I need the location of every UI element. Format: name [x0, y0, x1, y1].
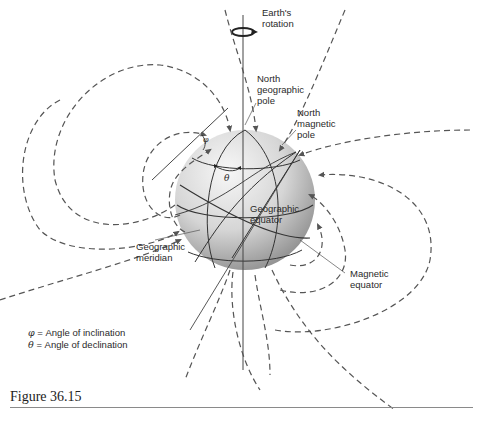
label-magnetic-equator: Magnetic equator	[350, 268, 389, 290]
phi-symbol: φ	[203, 134, 209, 145]
earth-sphere	[175, 130, 315, 270]
legend: φ = Angle of inclination θ = Angle of de…	[28, 327, 127, 351]
earth-magnetic-field-diagram: Earth's rotation North geographic pole N…	[0, 0, 479, 422]
label-geographic-meridian: Geographic meridian	[136, 241, 185, 263]
figure-caption: Figure 36.15	[10, 389, 82, 405]
label-earth-rotation: Earth's rotation	[262, 7, 294, 29]
legend-item-declination: θ = Angle of declination	[28, 339, 127, 351]
leader-magnetic-pole	[282, 130, 296, 145]
label-north-magnetic-pole: North magnetic pole	[297, 107, 336, 140]
legend-item-inclination: φ = Angle of inclination	[28, 327, 127, 339]
theta-symbol: θ	[224, 173, 229, 184]
leader-geographic-pole	[245, 103, 256, 125]
diagram-canvas	[0, 0, 479, 422]
label-north-geographic-pole: North geographic pole	[257, 73, 304, 106]
caption-divider	[10, 407, 473, 408]
label-geographic-equator: Geographic equator	[250, 203, 299, 225]
